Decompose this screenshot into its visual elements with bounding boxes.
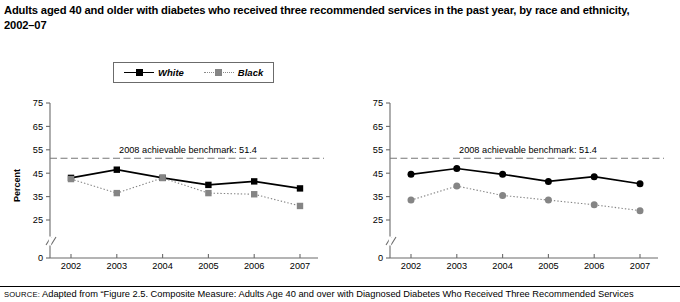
data-point-non-hispanic-white-2003: [453, 165, 460, 172]
x-tick-label: 2007: [630, 261, 650, 271]
data-point-white-2007: [297, 185, 303, 191]
data-point-hispanic-2003: [453, 183, 460, 190]
data-point-hispanic-2005: [545, 197, 552, 204]
data-point-black-2004: [159, 175, 165, 181]
y-tick-label: 35: [373, 192, 383, 202]
y-tick-label: 55: [373, 145, 383, 155]
x-tick-label: 2004: [492, 261, 512, 271]
y-tick-label-zero: 0: [38, 253, 43, 263]
y-tick-label: 65: [373, 122, 383, 132]
series-line-non-hispanic-white: [411, 169, 640, 184]
data-point-black-2005: [205, 190, 211, 196]
data-point-hispanic-2007: [637, 207, 644, 214]
x-tick-label: 2006: [584, 261, 604, 271]
y-tick-label: 65: [33, 122, 43, 132]
benchmark-label: 2008 achievable benchmark: 51.4: [119, 145, 257, 155]
square-marker-icon: [136, 69, 143, 76]
benchmark-label: 2008 achievable benchmark: 51.4: [459, 145, 597, 155]
x-tick-label: 2002: [61, 261, 81, 271]
y-tick-label: 25: [373, 215, 383, 225]
axis-break-icon: [391, 237, 396, 245]
source-text: Adapted from “Figure 2.5. Composite Meas…: [40, 289, 634, 299]
data-point-white-2005: [205, 182, 211, 188]
y-tick-label: 55: [33, 145, 43, 155]
y-tick-label: 45: [373, 169, 383, 179]
square-marker-icon: [215, 69, 222, 76]
footer-divider: [0, 286, 680, 287]
chart-panel-right: Non-Hispanic white Hispanic Percent 2535…: [340, 0, 680, 285]
chart-figure: Adults aged 40 and older with diabetes w…: [0, 0, 680, 302]
data-point-non-hispanic-white-2002: [408, 171, 415, 178]
x-tick-label: 2004: [152, 261, 172, 271]
y-tick-label-zero: 0: [378, 253, 383, 263]
x-tick-label: 2007: [290, 261, 310, 271]
data-point-black-2003: [114, 190, 120, 196]
data-point-non-hispanic-white-2006: [591, 173, 598, 180]
plot-area-right: 2535455565750200220032004200520062007200…: [340, 0, 680, 285]
data-point-non-hispanic-white-2007: [637, 180, 644, 187]
y-tick-label: 25: [33, 215, 43, 225]
y-tick-label: 45: [33, 169, 43, 179]
data-point-black-2006: [251, 191, 257, 197]
y-tick-label: 75: [33, 98, 43, 108]
x-tick-label: 2005: [198, 261, 218, 271]
x-tick-label: 2006: [244, 261, 264, 271]
y-tick-label: 75: [373, 98, 383, 108]
x-tick-label: 2003: [107, 261, 127, 271]
data-point-hispanic-2004: [499, 192, 506, 199]
data-point-white-2003: [114, 166, 120, 172]
series-line-hispanic: [411, 186, 640, 211]
chart-panel-left: White Black Percent 25354555657502002200…: [0, 0, 340, 285]
data-point-non-hispanic-white-2005: [545, 178, 552, 185]
x-tick-label: 2002: [401, 261, 421, 271]
x-tick-label: 2005: [538, 261, 558, 271]
data-point-black-2002: [68, 176, 74, 182]
data-point-hispanic-2006: [591, 201, 598, 208]
data-point-non-hispanic-white-2004: [499, 171, 506, 178]
plot-area-left: 2535455565750200220032004200520062007200…: [0, 0, 340, 285]
data-point-hispanic-2002: [408, 197, 415, 204]
axis-break-icon: [51, 237, 56, 245]
data-point-black-2007: [297, 203, 303, 209]
source-note: SOURCE: Adapted from “Figure 2.5. Compos…: [4, 289, 676, 300]
y-tick-label: 35: [33, 192, 43, 202]
x-tick-label: 2003: [447, 261, 467, 271]
data-point-white-2006: [251, 178, 257, 184]
source-prefix: SOURCE:: [4, 290, 40, 299]
